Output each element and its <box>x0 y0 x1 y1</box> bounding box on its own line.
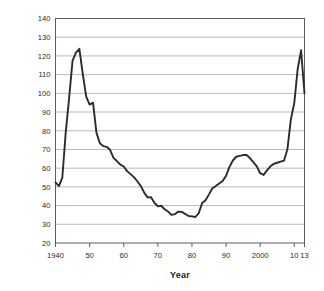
x-axis-tick-labels: 1940506070809020001013 <box>47 251 309 260</box>
chart-container: Federal debt as percentage of GDP 140130… <box>0 0 324 291</box>
y-axis-tick-label: 140 <box>38 14 51 23</box>
debt-to-gdp-line <box>56 49 305 217</box>
y-axis-tick-labels: 1401301201101009080706050403020 <box>38 14 51 248</box>
y-axis-tick-label: 50 <box>42 183 50 192</box>
line-chart-plot: 1401301201101009080706050403020 19405060… <box>0 0 324 291</box>
y-axis-tick-label: 90 <box>42 108 50 117</box>
y-axis-tick-label: 30 <box>42 220 50 229</box>
x-axis-tick-label: 10 <box>290 251 298 260</box>
gridlines-group <box>56 37 305 224</box>
y-axis-tick-label: 70 <box>42 145 50 154</box>
x-axis-tickmarks <box>56 243 305 247</box>
y-axis-tick-label: 100 <box>38 89 51 98</box>
y-axis-tick-label: 80 <box>42 127 50 136</box>
y-axis-tick-label: 120 <box>38 52 51 61</box>
y-axis-tick-label: 130 <box>38 33 51 42</box>
x-axis-tick-label: 70 <box>154 251 162 260</box>
x-axis-tick-label: 1940 <box>47 251 64 260</box>
x-axis-tick-label: 60 <box>119 251 127 260</box>
x-axis-tick-label: 13 <box>300 251 308 260</box>
x-axis-tick-label: 50 <box>85 251 93 260</box>
x-axis-tick-label: 80 <box>188 251 196 260</box>
x-axis-tick-label: 2000 <box>252 251 269 260</box>
y-axis-tick-label: 20 <box>42 239 50 248</box>
y-axis-tick-label: 40 <box>42 201 50 210</box>
y-axis-tick-label: 60 <box>42 164 50 173</box>
y-axis-tick-label: 110 <box>38 70 50 79</box>
x-axis-title: Year <box>55 270 305 280</box>
x-axis-tick-label: 90 <box>222 251 230 260</box>
